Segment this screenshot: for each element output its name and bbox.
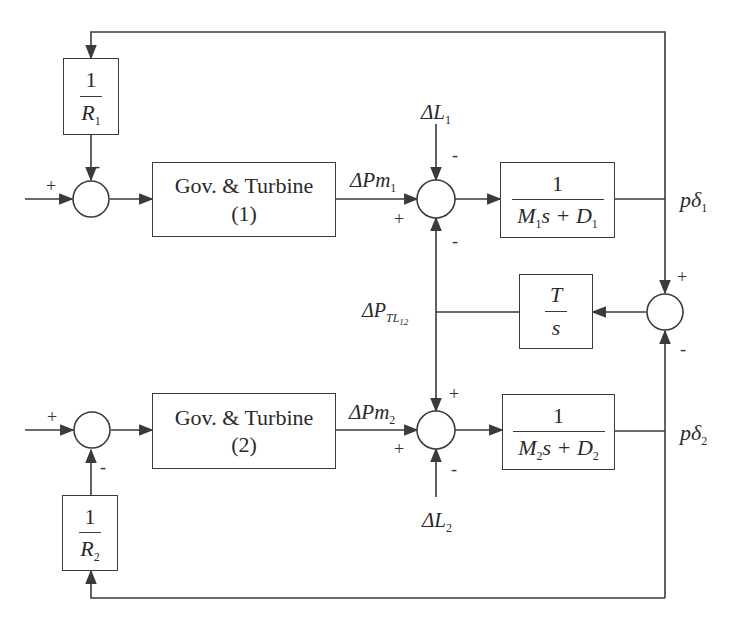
sign-sum5-input: + [47, 408, 57, 426]
gov2-line2: (2) [231, 431, 257, 459]
label-delta-ptl12: ΔPTL12 [362, 300, 408, 320]
gov-turbine-2-label: Gov. & Turbine (2) [152, 393, 336, 469]
gov1-line2: (1) [231, 200, 257, 228]
summing-junction-5 [74, 412, 110, 448]
r2-denominator: R2 [80, 537, 99, 561]
sign-sum2-bottom: - [452, 232, 458, 250]
sign-sum4-bottom: - [451, 460, 457, 478]
sign-sum2-top: - [452, 146, 458, 164]
m2-denominator: M2s + D2 [518, 436, 599, 460]
summing-junction-2 [417, 180, 455, 218]
r2-numerator: 1 [85, 505, 96, 529]
summing-junction-3 [647, 294, 683, 330]
r1-numerator: 1 [86, 68, 97, 92]
sign-sum5-feedback: - [100, 458, 106, 476]
summing-junction-1 [73, 181, 109, 217]
r1-denominator: R1 [81, 101, 100, 125]
frac-inverse-r2: 1 R2 [62, 495, 118, 571]
m2-numerator: 1 [553, 404, 564, 428]
label-p-delta1: pδ1 [680, 189, 707, 211]
sign-sum1-feedback: - [94, 157, 100, 175]
summing-junction-4 [417, 411, 455, 449]
tie-denominator: s [552, 316, 561, 340]
gov-turbine-1-label: Gov. & Turbine (1) [152, 162, 336, 237]
label-delta-pm2: ΔPm2 [349, 402, 395, 423]
m1-denominator: M1s + D1 [517, 204, 598, 228]
label-delta-l2: ΔL2 [422, 510, 452, 531]
gov2-line1: Gov. & Turbine [175, 404, 314, 432]
sign-sum1-input: + [46, 177, 56, 195]
sign-sum4-left: + [394, 440, 404, 458]
sign-sum3-bottom: - [680, 340, 686, 358]
sign-sum2-left: + [394, 210, 404, 228]
frac-tie-line: T s [519, 274, 593, 349]
tie-numerator: T [550, 283, 562, 307]
frac-inverse-r1: 1 R1 [63, 58, 119, 135]
label-p-delta2: pδ2 [680, 422, 707, 444]
sign-sum3-top: + [677, 268, 687, 286]
m1-numerator: 1 [552, 172, 563, 196]
frac-inertia-1: 1 M1s + D1 [500, 162, 615, 238]
frac-inertia-2: 1 M2s + D2 [502, 394, 615, 470]
gov1-line1: Gov. & Turbine [175, 172, 314, 200]
feedback-line-bottom [91, 571, 665, 598]
label-delta-pm1: ΔPm1 [350, 170, 396, 191]
sign-sum4-top: + [449, 385, 459, 403]
label-delta-l1: ΔL1 [421, 102, 451, 123]
